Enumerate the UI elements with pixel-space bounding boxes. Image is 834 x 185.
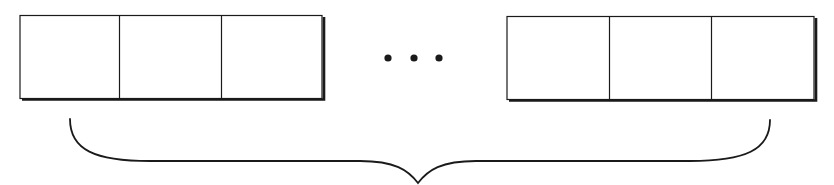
left-cell-2: [120, 16, 222, 99]
left-cell-1: [20, 16, 120, 99]
right-cell-2: [610, 17, 712, 100]
ellipsis-dot-1: [384, 54, 391, 61]
right-cell-3: [712, 17, 815, 100]
curly-brace: [70, 119, 770, 183]
diagram-canvas: [0, 0, 834, 185]
right-cell-group: [507, 17, 816, 101]
left-cell-3: [222, 16, 323, 99]
ellipsis-dot-3: [435, 54, 442, 61]
ellipsis-dot-2: [410, 54, 417, 61]
right-cell-1: [507, 17, 610, 100]
left-cell-group: [20, 16, 324, 100]
ellipsis-dots: [384, 54, 442, 61]
